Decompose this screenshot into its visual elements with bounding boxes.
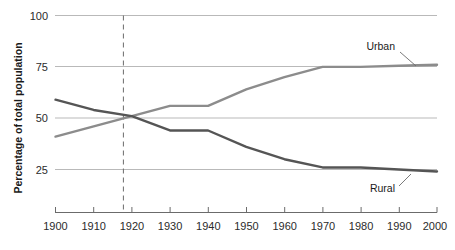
- x-tick-label-1950: 1950: [234, 220, 258, 232]
- y-tick-label-100: 100: [30, 10, 48, 22]
- x-tick-label-1980: 1980: [349, 220, 373, 232]
- line-chart-urban-rural-population: 100 75 50 25 Percentage of total populat…: [0, 0, 455, 250]
- y-axis-tick-labels: 100 75 50 25: [30, 10, 48, 176]
- x-tick-label-1960: 1960: [272, 220, 296, 232]
- x-axis-tick-labels: 1900 1910 1920 1930 1940 1950 1960 1970 …: [43, 220, 447, 232]
- y-tick-label-50: 50: [36, 112, 48, 124]
- x-tick-label-1940: 1940: [196, 220, 220, 232]
- rural-series-label: Rural: [370, 182, 395, 194]
- x-tick-label-1920: 1920: [120, 220, 144, 232]
- series-line-rural: [56, 100, 438, 172]
- x-tick-label-1910: 1910: [81, 220, 105, 232]
- x-tick-label-1930: 1930: [158, 220, 182, 232]
- urban-callout-leader-line: [400, 52, 416, 66]
- urban-series-label: Urban: [366, 40, 395, 52]
- y-axis-title: Percentage of total population: [12, 42, 24, 193]
- chart-canvas: 100 75 50 25 Percentage of total populat…: [0, 0, 455, 250]
- rural-callout-leader-line: [399, 174, 411, 186]
- x-tick-label-2000: 2000: [423, 220, 447, 232]
- x-tick-label-1990: 1990: [387, 220, 411, 232]
- x-tick-label-1970: 1970: [311, 220, 335, 232]
- series-line-urban: [56, 65, 438, 137]
- x-axis: [55, 207, 437, 213]
- y-tick-label-25: 25: [36, 164, 48, 176]
- x-tick-label-1900: 1900: [43, 220, 67, 232]
- y-tick-label-75: 75: [36, 61, 48, 73]
